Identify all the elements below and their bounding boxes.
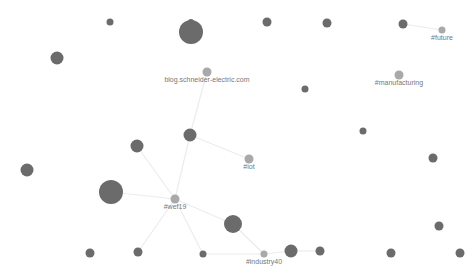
edge-n_hub-wef19: [175, 135, 190, 199]
network-graph: #future#manufacturingblog.schneider-elec…: [0, 0, 470, 280]
graph-node[interactable]: [302, 86, 309, 93]
node-label-wef19: #wef19: [164, 203, 187, 210]
graph-node[interactable]: [107, 19, 114, 26]
graph-node[interactable]: [184, 129, 197, 142]
edge-wef19-n_left_mid: [137, 146, 175, 199]
node-label-manufacturing: #manufacturing: [375, 79, 423, 87]
graph-node[interactable]: [387, 249, 396, 258]
node-label-future: #future: [431, 34, 453, 41]
graph-node[interactable]: [435, 222, 444, 231]
graph-node[interactable]: [224, 215, 242, 233]
node-future[interactable]: [439, 27, 446, 34]
graph-node[interactable]: [285, 245, 298, 258]
node-label-iot: #iot: [243, 163, 254, 170]
edge-n_hub-iot: [190, 135, 249, 159]
graph-node[interactable]: [316, 247, 325, 256]
graph-node[interactable]: [399, 20, 408, 29]
nodes-layer: [21, 18, 465, 258]
node-label-industry40: #industry40: [246, 258, 282, 266]
graph-node[interactable]: [51, 52, 64, 65]
graph-node[interactable]: [21, 164, 34, 177]
graph-node[interactable]: [456, 249, 465, 258]
graph-node[interactable]: [131, 140, 144, 153]
edges-layer: [111, 24, 442, 254]
graph-node[interactable]: [134, 248, 143, 257]
graph-node[interactable]: [360, 128, 367, 135]
graph-node[interactable]: [99, 180, 123, 204]
graph-node[interactable]: [429, 154, 438, 163]
graph-node[interactable]: [323, 19, 332, 28]
edge-n_future_hub-future: [403, 24, 442, 30]
graph-node[interactable]: [188, 19, 194, 25]
node-label-blog: blog.schneider-electric.com: [164, 76, 249, 84]
node-industry40[interactable]: [261, 251, 268, 258]
graph-node[interactable]: [200, 251, 207, 258]
graph-node[interactable]: [86, 249, 95, 258]
graph-node[interactable]: [263, 18, 272, 27]
